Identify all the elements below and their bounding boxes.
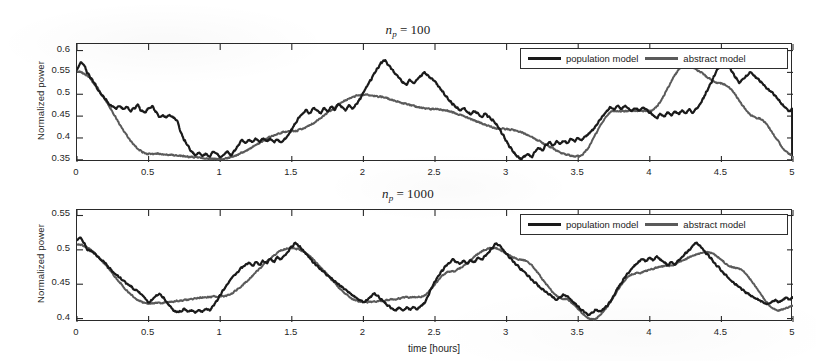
panel-bottom-title-equals: =: [394, 186, 408, 201]
panel-bottom-legend-entry-abstract: abstract model: [645, 219, 745, 230]
panel-bottom-x-tick-label: 5: [772, 326, 812, 337]
panel-bottom-x-tick-label: 1: [199, 326, 239, 337]
panel-top-legend-entry-abstract: abstract model: [645, 53, 745, 64]
panel-top-y-tick-label: 0.45: [32, 108, 70, 119]
panel-top-x-tick-label: 0: [56, 166, 96, 177]
panel-top-legend-label-population: population model: [566, 53, 638, 64]
panel-top-x-tick-label: 1.5: [271, 166, 311, 177]
panel-top-x-tick-label: 4: [629, 166, 669, 177]
panel-bottom-x-tick-label: 4: [629, 326, 669, 337]
panel-bottom-x-tick-label: 0.5: [128, 326, 168, 337]
panel-bottom-legend: population model abstract model: [520, 214, 788, 235]
panel-top-x-tick-label: 3: [486, 166, 526, 177]
panel-bottom-y-tick-label: 0.5: [32, 242, 70, 253]
chart-panel-top: np=100 Normalized power population model…: [0, 0, 816, 181]
abstract-model-line-swatch-icon: [645, 223, 678, 226]
panel-bottom-y-axis-label: Normalized power: [35, 204, 46, 324]
panel-top-legend-entry-population: population model: [528, 53, 638, 64]
panel-bottom-legend-label-abstract: abstract model: [683, 219, 745, 230]
panel-bottom-y-tick-label: 0.4: [32, 311, 70, 322]
panel-bottom-y-tick-label: 0.55: [32, 207, 70, 218]
population-model-line-swatch-icon: [528, 57, 561, 60]
panel-top-y-tick-label: 0.4: [32, 130, 70, 141]
panel-bottom-x-tick-label: 3: [486, 326, 526, 337]
panel-bottom-x-tick-label: 0: [56, 326, 96, 337]
population-model-line-swatch-icon: [528, 223, 561, 226]
panel-top-y-axis-label: Normalized power: [35, 41, 46, 161]
panel-bottom-title-subscript: p: [389, 193, 394, 203]
panel-bottom-x-tick-label: 2: [342, 326, 382, 337]
abstract-model-line-swatch-icon: [645, 57, 678, 60]
panel-bottom-population-model-line: [77, 238, 793, 316]
panel-top-title-equals: =: [397, 22, 411, 37]
panel-top-x-tick-label: 4.5: [700, 166, 740, 177]
panel-top-title-value: 100: [410, 22, 430, 37]
panel-top-x-tick-label: 1: [199, 166, 239, 177]
panel-bottom-x-tick-label: 2.5: [414, 326, 454, 337]
panel-bottom-x-tick-label: 3.5: [557, 326, 597, 337]
panel-bottom-legend-entry-population: population model: [528, 219, 638, 230]
panel-bottom-x-axis-label: time [hours]: [76, 343, 792, 354]
chart-panel-bottom: np=1000 Normalized power time [hours] po…: [0, 181, 816, 361]
panel-top-x-tick-label: 5: [772, 166, 812, 177]
panel-bottom-x-tick-label: 4.5: [700, 326, 740, 337]
panel-top-x-tick-label: 0.5: [128, 166, 168, 177]
panel-top-x-tick-label: 2: [342, 166, 382, 177]
panel-top-y-tick-label: 0.6: [32, 43, 70, 54]
panel-bottom-title-variable: n: [382, 186, 389, 201]
panel-bottom-y-tick-label: 0.45: [32, 276, 70, 287]
panel-top-x-tick-label: 2.5: [414, 166, 454, 177]
panel-bottom-title-value: 1000: [407, 186, 434, 201]
panel-top-y-tick-label: 0.35: [32, 152, 70, 163]
panel-top-x-tick-label: 3.5: [557, 166, 597, 177]
panel-bottom-title: np=1000: [0, 186, 816, 203]
panel-bottom-legend-label-population: population model: [566, 219, 638, 230]
panel-bottom-x-tick-label: 1.5: [271, 326, 311, 337]
panel-top-y-tick-label: 0.55: [32, 64, 70, 75]
panel-top-legend-label-abstract: abstract model: [683, 53, 745, 64]
panel-top-legend: population model abstract model: [520, 48, 788, 69]
panel-top-y-tick-label: 0.5: [32, 86, 70, 97]
panel-top-title: np=100: [0, 22, 816, 39]
